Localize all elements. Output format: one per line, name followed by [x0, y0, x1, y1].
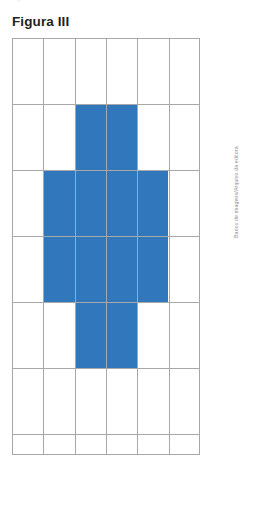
figure-grid-artwork: [12, 38, 200, 455]
grid-line-vertical-5: [169, 38, 170, 455]
grid-line-vertical-1: [43, 38, 44, 455]
page-top-cutoff-text: · · ○: [6, 0, 254, 4]
grid-line-vertical-0: [12, 38, 13, 455]
image-credit-text: Banco de imagens/Arquivo da editora: [230, 38, 243, 238]
grid-line-horizontal-0: [12, 38, 200, 39]
grid-line-horizontal-4: [12, 302, 200, 303]
grid-line-horizontal-3: [12, 236, 200, 237]
grid-line-horizontal-7: [12, 454, 200, 455]
grid-line-vertical-4: [137, 38, 138, 455]
grid-line-horizontal-1: [12, 104, 200, 105]
grid-lines-layer: [12, 38, 200, 455]
grid-line-horizontal-2: [12, 170, 200, 171]
grid-line-vertical-2: [75, 38, 76, 455]
grid-line-horizontal-5: [12, 368, 200, 369]
image-credit: Banco de imagens/Arquivo da editora: [230, 38, 244, 238]
figure-title: Figura III: [12, 13, 69, 30]
grid-line-vertical-6: [199, 38, 200, 455]
page-top-cutoff-strip: · · ○: [0, 0, 259, 9]
grid-line-horizontal-6: [12, 434, 200, 435]
grid-line-vertical-3: [106, 38, 107, 455]
